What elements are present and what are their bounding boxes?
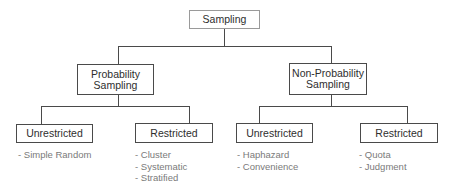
node-prob-unrestricted: Unrestricted (16, 124, 93, 143)
node-probability-sampling: Probability Sampling (77, 64, 154, 95)
list-item: - Convenience (237, 161, 298, 173)
node-prob-restricted-label: Restricted (150, 128, 197, 139)
node-sampling: Sampling (189, 10, 260, 29)
list-item: - Stratified (135, 172, 187, 184)
connector-root-horizontal (118, 46, 332, 47)
list-item: - Simple Random (18, 149, 91, 161)
list-prob-unrestricted: - Simple Random (18, 149, 91, 161)
node-probability-label-line1: Probability (91, 69, 140, 80)
list-item: - Cluster (135, 149, 187, 161)
node-sampling-label: Sampling (203, 14, 247, 25)
list-nonprob-restricted: - Quota - Judgment (359, 149, 407, 172)
node-nonprob-restricted: Restricted (360, 123, 438, 143)
node-non-probability-sampling: Non-Probability Sampling (289, 63, 367, 95)
list-item: - Quota (359, 149, 407, 161)
node-nonprob-unrestricted-label: Unrestricted (246, 128, 303, 139)
node-non-probability-label-line2: Sampling (306, 79, 350, 90)
node-probability-label-line2: Sampling (94, 80, 138, 91)
node-nonprob-restricted-label: Restricted (375, 128, 422, 139)
connector-probability-down (118, 94, 119, 106)
connector-probability-horizontal (41, 106, 190, 107)
node-nonprob-unrestricted: Unrestricted (236, 123, 313, 143)
connector-to-non-probability (331, 46, 332, 63)
connector-non-probability-horizontal (259, 106, 408, 107)
list-item: - Systematic (135, 161, 187, 173)
connector-to-probability (118, 46, 119, 64)
node-prob-restricted: Restricted (135, 123, 213, 143)
list-item: - Judgment (359, 161, 407, 173)
list-prob-restricted: - Cluster - Systematic - Stratified (135, 149, 187, 184)
connector-non-probability-down (331, 94, 332, 106)
connector-to-nonprob-restricted (407, 106, 408, 123)
connector-root-down (224, 28, 225, 46)
list-nonprob-unrestricted: - Haphazard - Convenience (237, 149, 298, 172)
list-item: - Haphazard (237, 149, 298, 161)
connector-to-prob-unrestricted (41, 106, 42, 124)
connector-to-prob-restricted (189, 106, 190, 123)
node-prob-unrestricted-label: Unrestricted (26, 128, 83, 139)
connector-to-nonprob-unrestricted (259, 106, 260, 123)
